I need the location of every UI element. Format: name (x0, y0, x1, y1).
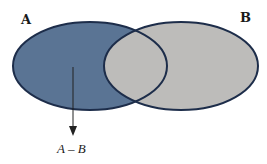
arrow-head-icon (69, 126, 77, 136)
set-b-label: B (240, 10, 251, 25)
difference-annotation: A – B (56, 141, 86, 156)
venn-diagram: A B A – B (0, 0, 267, 164)
set-a-label: A (20, 12, 32, 27)
